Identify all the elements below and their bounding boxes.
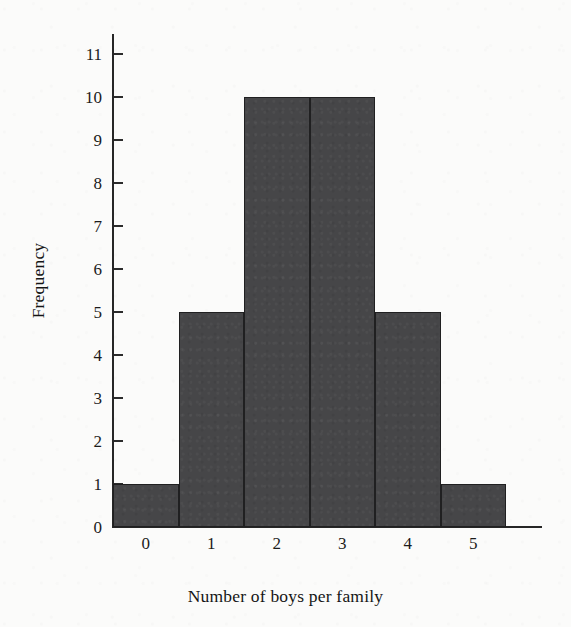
y-tick-label: 2 [62,433,112,450]
y-tick-mark [114,268,123,270]
y-tick-label: 3 [62,390,112,407]
bar [441,484,507,527]
bar [244,97,310,527]
y-tick-label: 1 [62,476,112,493]
y-tick-label: 7 [62,218,112,235]
x-axis-title: Number of boys per family [0,586,571,607]
x-tick-label: 5 [441,533,507,555]
y-tick-label: 10 [62,89,112,106]
bar [375,312,441,527]
y-tick-mark [114,182,123,184]
y-tick-label: 0 [62,519,112,536]
y-tick-mark [114,53,123,55]
x-tick-label: 0 [113,533,179,555]
histogram-chart: 01234567891011 012345 Number of boys per… [0,0,571,627]
x-tick-label: 3 [310,533,376,555]
y-tick-mark [114,139,123,141]
y-axis-line [112,34,114,528]
x-tick-label: 2 [244,533,310,555]
bar [113,484,179,527]
y-tick-label: 5 [62,304,112,321]
y-tick-label: 11 [62,46,112,63]
y-tick-mark [114,96,123,98]
y-tick-label: 4 [62,347,112,364]
bar [179,312,245,527]
y-tick-mark [114,311,123,313]
y-tick-mark [114,225,123,227]
y-tick-label: 9 [62,132,112,149]
x-tick-label: 1 [179,533,245,555]
y-tick-mark [114,397,123,399]
bar [310,97,376,527]
y-tick-label: 6 [62,261,112,278]
x-tick-label: 4 [375,533,441,555]
y-tick-mark [114,354,123,356]
y-axis-title: Frequency [28,201,49,361]
y-tick-label: 8 [62,175,112,192]
y-tick-mark [114,440,123,442]
